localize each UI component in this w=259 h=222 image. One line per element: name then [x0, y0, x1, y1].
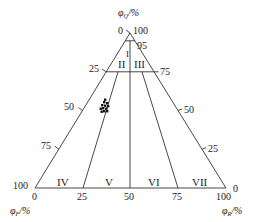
label-right-50: 50	[184, 104, 194, 115]
label-right-corner-100: 100	[216, 191, 231, 202]
label-right-25: 25	[208, 143, 218, 154]
axis-title-r: φR/%	[222, 205, 242, 217]
label-base-75: 75	[172, 191, 182, 202]
label-left-75: 75	[41, 140, 51, 151]
label-right-corner-0: 0	[233, 183, 238, 194]
label-left-corner-100: 100	[13, 180, 28, 191]
region-I: I	[126, 49, 129, 59]
region-V: V	[105, 176, 113, 188]
ternary-diagram: φQ/% 0 100 95 25 50 75 75 50 25 100 0 25…	[0, 0, 259, 222]
region-II: II	[118, 58, 126, 70]
tick-left-75	[55, 146, 59, 149]
tick-left-25	[102, 69, 106, 72]
tick-top-100	[126, 30, 130, 33]
label-95: 95	[137, 40, 147, 51]
label-base-50: 50	[124, 191, 134, 202]
region-III: III	[134, 58, 145, 70]
axis-title-q: φQ/%	[118, 7, 139, 19]
tick-right-50	[178, 109, 182, 111]
axis-title-f: φF/%	[10, 205, 30, 217]
label-left-25: 25	[89, 63, 99, 74]
divider-75	[142, 72, 178, 188]
label-top-100: 100	[133, 25, 148, 36]
region-VII: VII	[192, 176, 208, 188]
label-base-25: 25	[77, 191, 87, 202]
label-top-0: 0	[118, 25, 123, 36]
region-IV: IV	[57, 176, 69, 188]
region-VI: VI	[148, 176, 160, 188]
divider-25	[83, 72, 118, 188]
tick-right-25	[202, 148, 206, 150]
tick-left-50	[79, 108, 83, 111]
sample-points	[100, 99, 110, 113]
label-left-corner-0: 0	[32, 191, 37, 202]
label-left-50: 50	[64, 101, 74, 112]
label-right-75: 75	[160, 66, 170, 77]
